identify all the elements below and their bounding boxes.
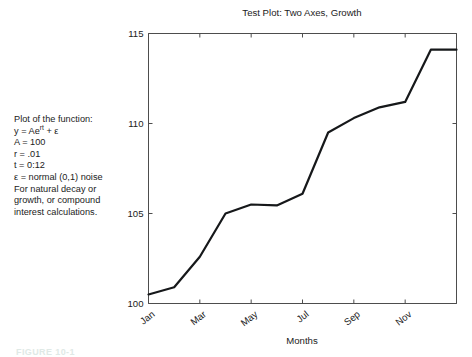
x-axis-ticks: JanMarMayJulSepNov — [138, 34, 457, 329]
y-tick-label: 105 — [127, 208, 143, 219]
y-tick-label: 115 — [128, 28, 143, 39]
y-tick-label: 100 — [127, 298, 143, 309]
chart-title: Test Plot: Two Axes, Growth — [242, 7, 361, 18]
x-tick-label: Jan — [138, 308, 157, 326]
data-series-line — [149, 50, 457, 295]
y-axis-ticks: 100105110115 — [127, 28, 456, 309]
y-tick-label: 110 — [128, 118, 143, 129]
x-axis-title: Months — [286, 335, 318, 346]
x-tick-label: Jul — [294, 308, 310, 324]
x-tick-label: Nov — [393, 308, 413, 327]
x-tick-label: Mar — [188, 308, 208, 327]
x-tick-label: Sep — [342, 308, 362, 327]
figure-caption: FIGURE 10-1 — [16, 347, 75, 357]
x-tick-label: May — [238, 308, 259, 328]
